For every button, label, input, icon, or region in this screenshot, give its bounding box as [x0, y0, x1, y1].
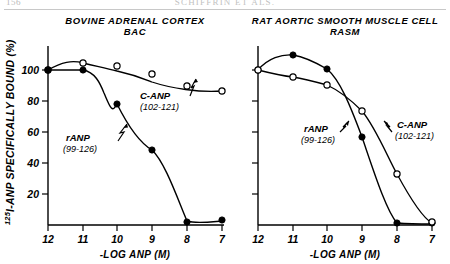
data-point — [324, 82, 330, 88]
x-tick-label-8: 8 — [394, 233, 400, 245]
x-tick-label-9: 9 — [359, 233, 365, 245]
panel-rasm-annotation-c-anp: C-ANP (102-121) — [384, 119, 434, 141]
panel-rasm-c-anp-label-line2: (102-121) — [395, 131, 434, 141]
svg-text:125I-ANP SPECIFICALLY BOUND (%: 125I-ANP SPECIFICALLY BOUND (%) — [3, 39, 17, 225]
panel-bac-y-ticks — [42, 70, 48, 194]
x-tick-label-10: 10 — [321, 233, 333, 245]
panel-bac-ranp-arrowhead — [124, 124, 129, 128]
panel-bac-title-line2: BAC — [124, 26, 146, 37]
data-point — [429, 219, 435, 225]
y-tick-label-80: 80 — [27, 95, 39, 107]
panel-rasm-annotation-ranp: rANP (99-126) — [301, 121, 349, 145]
data-point — [359, 134, 365, 140]
x-tick-label-10: 10 — [111, 233, 123, 245]
panel-bac-curve-c-anp — [48, 62, 222, 92]
anp-binding-figure: 125I-ANP SPECIFICALLY BOUND (%) BOVINE A… — [0, 0, 450, 264]
panel-rasm-y-ticks — [252, 70, 258, 194]
data-point — [290, 52, 296, 58]
panel-bac-c-anp-label-line2: (102-121) — [140, 102, 179, 112]
panel-bac-c-anp-label-line1: C-ANP — [140, 90, 171, 101]
data-point — [184, 83, 190, 89]
data-point — [80, 60, 86, 66]
panel-rasm: RAT AORTIC SMOOTH MUSCLE CELL RASM 12 11… — [252, 15, 438, 260]
y-tick-label-40: 40 — [26, 157, 39, 169]
data-point — [149, 71, 155, 77]
panel-rasm-x-tick-labels: 12 11 10 9 8 7 — [252, 233, 436, 245]
x-tick-label-11: 11 — [288, 233, 299, 245]
data-point — [255, 67, 261, 73]
panel-bac-title-line1: BOVINE ADRENAL CORTEX — [65, 15, 205, 26]
panel-bac-annotation-ranp: rANP (99-126) — [63, 124, 128, 154]
panel-rasm-curve-c-anp — [258, 70, 432, 223]
data-point — [114, 63, 120, 69]
data-point — [114, 101, 120, 107]
panel-bac-y-tick-labels: 20 40 60 80 100 — [21, 64, 39, 200]
panel-rasm-x-ticks — [258, 225, 432, 231]
panel-bac-ranp-label-line1: rANP — [66, 132, 90, 143]
data-point — [149, 147, 155, 153]
y-tick-label-60: 60 — [27, 126, 39, 138]
x-tick-label-7: 7 — [429, 233, 436, 245]
data-point — [290, 74, 296, 80]
x-tick-label-8: 8 — [184, 233, 190, 245]
data-point — [324, 66, 330, 72]
x-tick-label-12: 12 — [252, 233, 264, 245]
panel-rasm-ranp-label-line1: rANP — [304, 123, 328, 134]
data-point — [394, 220, 400, 226]
panel-bac-x-ticks — [48, 225, 222, 231]
x-tick-label-11: 11 — [78, 233, 89, 245]
data-point — [359, 108, 365, 114]
data-point — [45, 67, 51, 73]
y-tick-label-100: 100 — [21, 64, 39, 76]
data-point — [394, 171, 400, 177]
panel-bac-ranp-label-line2: (99-126) — [63, 144, 97, 154]
panel-bac: BOVINE ADRENAL CORTEX BAC 20 40 60 80 10… — [21, 15, 226, 260]
data-point — [80, 67, 86, 73]
panel-rasm-title-line1: RAT AORTIC SMOOTH MUSCLE CELL — [252, 15, 438, 26]
panel-rasm-points-c-anp — [255, 67, 435, 225]
panel-rasm-ranp-arrowhead — [346, 121, 350, 126]
panel-rasm-ranp-label-line2: (99-126) — [301, 135, 335, 145]
panel-rasm-x-axis-title: -LOG ANP (M) — [310, 249, 381, 260]
panel-bac-x-axis-title: -LOG ANP (M) — [100, 249, 171, 260]
y-axis-label-superscript: 125 — [3, 211, 12, 225]
y-tick-label-20: 20 — [26, 188, 39, 200]
data-point — [219, 88, 225, 94]
panel-rasm-title-line2: RASM — [330, 26, 361, 37]
data-point — [219, 217, 225, 223]
panel-bac-points-c-anp — [45, 60, 225, 94]
panel-rasm-c-anp-label-line1: C-ANP — [397, 119, 428, 130]
panel-bac-c-anp-arrowhead — [194, 79, 199, 83]
x-tick-label-9: 9 — [149, 233, 155, 245]
panel-bac-x-tick-labels: 12 11 10 9 8 7 — [42, 233, 226, 245]
data-point — [184, 219, 190, 225]
y-axis-label-text: I-ANP SPECIFICALLY BOUND (%) — [4, 39, 16, 212]
x-tick-label-12: 12 — [42, 233, 54, 245]
y-axis-label: 125I-ANP SPECIFICALLY BOUND (%) — [3, 39, 17, 225]
x-tick-label-7: 7 — [219, 233, 226, 245]
